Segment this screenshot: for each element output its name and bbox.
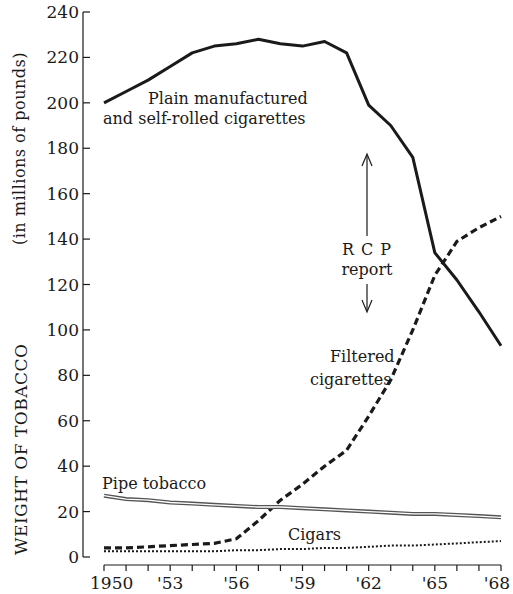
pipe-tobacco-label: Pipe tobacco: [102, 474, 206, 493]
x-tick-label: '59: [289, 573, 315, 593]
rcp-down-arrow-icon: [362, 284, 372, 312]
y-tick-label: 20: [57, 502, 79, 522]
plain-manufactured-and-self-rolled-cigarettes-line: [104, 39, 501, 346]
plain-cigarettes-label-line2: and self-rolled cigarettes: [103, 109, 306, 128]
rcp-report-label-line1: R C P: [342, 240, 392, 259]
plain-cigarettes-label-line1: Plain manufactured: [148, 89, 308, 108]
y-tick-label: 80: [57, 365, 79, 385]
tobacco-consumption-chart: 0204060801001201401601802002202401950'53…: [0, 0, 513, 594]
y-tick-label: 0: [68, 547, 79, 567]
y-tick-label: 180: [47, 138, 79, 158]
y-tick-label: 220: [47, 47, 79, 67]
y-axis-title: WEIGHT OF TOBACCO: [11, 344, 31, 555]
y-tick-label: 240: [47, 2, 79, 22]
y-tick-label: 200: [47, 93, 79, 113]
filtered-cigarettes-line: [104, 216, 501, 548]
x-tick-label: '56: [223, 573, 249, 593]
rcp-up-arrow-icon: [362, 154, 372, 236]
x-tick-label: '62: [356, 573, 382, 593]
x-tick-label: '53: [157, 573, 183, 593]
rcp-report-label-line2: report: [341, 260, 393, 279]
x-tick-label: '65: [422, 573, 448, 593]
filtered-cigarettes-label-line1: Filtered: [330, 347, 395, 366]
y-tick-label: 40: [57, 456, 79, 476]
y-tick-label: 160: [47, 184, 79, 204]
filtered-cigarettes-label-line2: cigarettes: [310, 370, 392, 389]
y-axis-units: (in millions of pounds): [10, 52, 29, 245]
cigars-label: Cigars: [288, 525, 341, 544]
x-tick-label: '68: [484, 573, 510, 593]
y-tick-label: 140: [47, 229, 79, 249]
y-tick-label: 120: [47, 275, 79, 295]
y-tick-label: 100: [47, 320, 79, 340]
y-tick-label: 60: [57, 411, 79, 431]
x-tick-label: 1950: [90, 573, 133, 593]
